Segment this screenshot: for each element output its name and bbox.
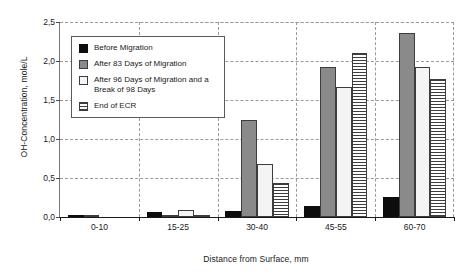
bar [430,79,446,217]
legend-item: After 83 Days of Migration [79,59,218,69]
swatch-black-icon [79,44,88,53]
bar [84,215,100,217]
legend-item-label: Before Migration [94,43,153,53]
bar [68,215,84,217]
swatch-white-icon [79,76,88,85]
bar [352,53,368,217]
legend-item-label: End of ECR [94,101,136,111]
y-tick-mark [56,178,60,179]
x-tick-mark [296,217,297,221]
category-separator [375,22,376,217]
x-tick-label: 15-25 [167,223,189,232]
x-tick-mark [218,217,219,221]
swatch-gray-icon [79,60,88,69]
x-tick-label: 60-70 [404,223,426,232]
bar [241,120,257,217]
x-tick-label: 45-55 [325,223,347,232]
legend-item-label: After 96 Days of Migration and a Break o… [94,75,218,95]
y-tick-label: 2,0 [43,57,55,66]
chart-legend: Before MigrationAfter 83 Days of Migrati… [71,36,225,118]
y-tick-mark [56,22,60,23]
bar-chart: OH-Concentration, mole/L 0,00,51,01,52,0… [0,0,461,276]
legend-item: Before Migration [79,43,218,53]
bar [336,87,352,217]
legend-item: End of ECR [79,101,218,111]
bar [194,215,210,217]
x-tick-label: 30-40 [246,223,268,232]
x-tick-mark [60,217,61,221]
bar [415,67,431,217]
y-tick-mark [56,139,60,140]
bar [178,210,194,217]
legend-item: After 96 Days of Migration and a Break o… [79,75,218,95]
x-tick-mark [139,217,140,221]
x-axis-title: Distance from Surface, mm [59,254,453,264]
x-tick-mark [375,217,376,221]
bar [147,212,163,217]
plot-frame-right [453,22,454,217]
y-tick-label: 1,5 [43,96,55,105]
bar [273,183,289,217]
gridline [60,139,454,140]
x-tick-mark [454,217,455,221]
y-tick-label: 2,5 [43,18,55,27]
bar [257,164,273,217]
y-tick-mark [56,100,60,101]
category-separator [296,22,297,217]
y-axis-title: OH-Concentration, mole/L [19,12,29,202]
y-tick-label: 1,0 [43,135,55,144]
y-tick-mark [56,61,60,62]
swatch-striped-icon [79,102,88,111]
bar [399,33,415,217]
legend-item-label: After 83 Days of Migration [94,59,186,69]
bar [320,67,336,217]
y-tick-label: 0,0 [43,213,55,222]
gridline [60,22,454,23]
bar [304,206,320,217]
y-tick-label: 0,5 [43,174,55,183]
bar [162,215,178,217]
bar [383,197,399,217]
x-tick-label: 0-10 [91,223,108,232]
bar [225,211,241,217]
